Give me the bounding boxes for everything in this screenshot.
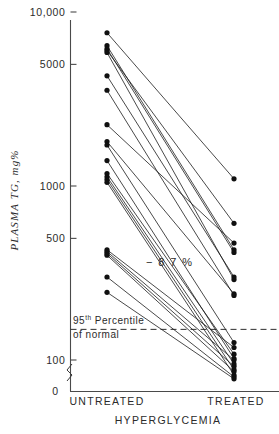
slope-chart: 1005001000500010,000 0 PLASMA TG, mg% UN… bbox=[0, 0, 279, 434]
data-point bbox=[104, 122, 109, 127]
data-point bbox=[231, 376, 236, 381]
data-point bbox=[104, 142, 109, 147]
y-axis-zero-label: 0 bbox=[52, 385, 58, 397]
y-tick-label-10000: 10,000 bbox=[30, 6, 66, 18]
data-point bbox=[231, 340, 236, 345]
slope-line bbox=[107, 182, 234, 375]
data-point bbox=[231, 221, 236, 226]
x-axis-title: HYPERGLYCEMIA bbox=[115, 414, 222, 426]
slope-line bbox=[107, 179, 234, 369]
slope-line bbox=[107, 125, 234, 243]
y-tick-label-5000: 5000 bbox=[40, 58, 66, 70]
x-axis-label-treated: TREATED bbox=[207, 395, 264, 407]
data-point bbox=[231, 345, 236, 350]
y-tick-label-500: 500 bbox=[46, 232, 65, 244]
data-point bbox=[104, 50, 109, 55]
data-point bbox=[231, 274, 236, 279]
data-point bbox=[104, 180, 109, 185]
data-point bbox=[231, 357, 236, 362]
y-tick-label-100: 100 bbox=[46, 354, 65, 366]
slope-line bbox=[107, 53, 234, 280]
slope-line bbox=[107, 49, 234, 253]
slope-lines bbox=[107, 33, 234, 379]
data-point bbox=[231, 364, 236, 369]
data-point bbox=[104, 30, 109, 35]
data-point bbox=[231, 291, 236, 296]
x-axis-label-untreated: UNTREATED bbox=[69, 395, 144, 407]
percent-change-annotation: − 8 7 % bbox=[146, 256, 193, 268]
data-point bbox=[231, 250, 236, 255]
slope-line bbox=[107, 51, 234, 224]
reference-line-caption-line2: of normal bbox=[73, 329, 119, 340]
reference-line-caption: 95th Percentile bbox=[73, 314, 144, 326]
axis-break-icon bbox=[67, 364, 72, 381]
data-point bbox=[104, 158, 109, 163]
data-point bbox=[104, 274, 109, 279]
data-point bbox=[231, 369, 236, 374]
data-point bbox=[231, 176, 236, 181]
y-axis-tick-labels: 1005001000500010,000 bbox=[30, 6, 66, 366]
data-point bbox=[104, 253, 109, 258]
figure-panel: 1005001000500010,000 0 PLASMA TG, mg% UN… bbox=[0, 0, 279, 434]
data-point bbox=[104, 73, 109, 78]
data-point bbox=[231, 240, 236, 245]
y-tick-label-1000: 1000 bbox=[40, 180, 66, 192]
y-axis-title: PLASMA TG, mg% bbox=[8, 149, 20, 251]
data-point bbox=[231, 352, 236, 357]
data-point bbox=[104, 290, 109, 295]
data-point bbox=[104, 88, 109, 93]
